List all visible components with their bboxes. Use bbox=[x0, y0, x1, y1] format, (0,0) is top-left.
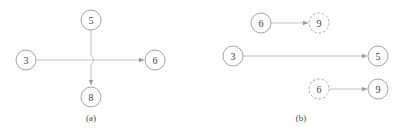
panel-a: 3 5 6 8 (a) bbox=[16, 10, 165, 123]
node-label: 5 bbox=[376, 51, 381, 62]
node-3: 3 bbox=[16, 50, 36, 70]
node-5-b: 5 bbox=[368, 46, 388, 66]
caption-a: (a) bbox=[86, 113, 96, 123]
edge-5-to-8 bbox=[91, 30, 94, 85]
node-label: 3 bbox=[231, 51, 236, 62]
node-label: 9 bbox=[376, 84, 381, 95]
node-label: 6 bbox=[317, 84, 322, 95]
panel-b: 6 9 3 5 6 9 (b) bbox=[223, 13, 388, 123]
node-label: 6 bbox=[153, 55, 158, 66]
node-label: 6 bbox=[259, 18, 264, 29]
node-9-bottom: 9 bbox=[368, 79, 388, 99]
node-3-b: 3 bbox=[223, 46, 243, 66]
node-label: 3 bbox=[24, 55, 29, 66]
node-8: 8 bbox=[81, 87, 101, 107]
node-6: 6 bbox=[145, 50, 165, 70]
node-5: 5 bbox=[81, 10, 101, 30]
node-6-bottom-dashed: 6 bbox=[309, 79, 329, 99]
node-6-top: 6 bbox=[251, 13, 271, 33]
node-label: 9 bbox=[317, 18, 322, 29]
diagram-canvas: 3 5 6 8 (a) 6 9 3 bbox=[0, 0, 401, 131]
node-9-top-dashed: 9 bbox=[309, 13, 329, 33]
node-label: 5 bbox=[89, 15, 94, 26]
caption-b: (b) bbox=[296, 113, 307, 123]
node-label: 8 bbox=[89, 92, 94, 103]
